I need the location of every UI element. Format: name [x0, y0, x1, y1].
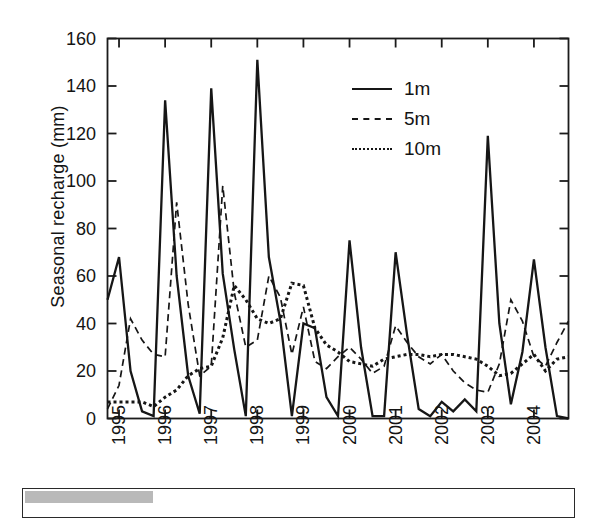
x-tick-label-2004: 2004 [525, 405, 543, 465]
x-tick-label-2001: 2001 [387, 405, 405, 465]
legend-item-10m: 10m [352, 134, 502, 164]
caption-highlight [25, 491, 153, 503]
legend-swatch-solid-icon [352, 82, 392, 96]
x-tick-label-2002: 2002 [433, 405, 451, 465]
x-tick-label-1995: 1995 [110, 405, 128, 465]
legend-swatch-dashed-icon [352, 112, 392, 126]
x-tick-label-1997: 1997 [202, 405, 220, 465]
legend-item-1m: 1m [352, 74, 502, 104]
chart-legend: 1m5m10m [352, 74, 502, 164]
caption-box [22, 488, 575, 518]
x-tick-label-1999: 1999 [294, 405, 312, 465]
legend-item-5m: 5m [352, 104, 502, 134]
legend-swatch-dotted-icon [352, 142, 392, 156]
x-tick-label-1996: 1996 [156, 405, 174, 465]
x-tick-label-2000: 2000 [341, 405, 359, 465]
legend-label-5m: 5m [404, 108, 430, 130]
legend-label-10m: 10m [404, 138, 441, 160]
legend-label-1m: 1m [404, 78, 430, 100]
x-tick-label-1998: 1998 [248, 405, 266, 465]
x-tick-label-2003: 2003 [479, 405, 497, 465]
